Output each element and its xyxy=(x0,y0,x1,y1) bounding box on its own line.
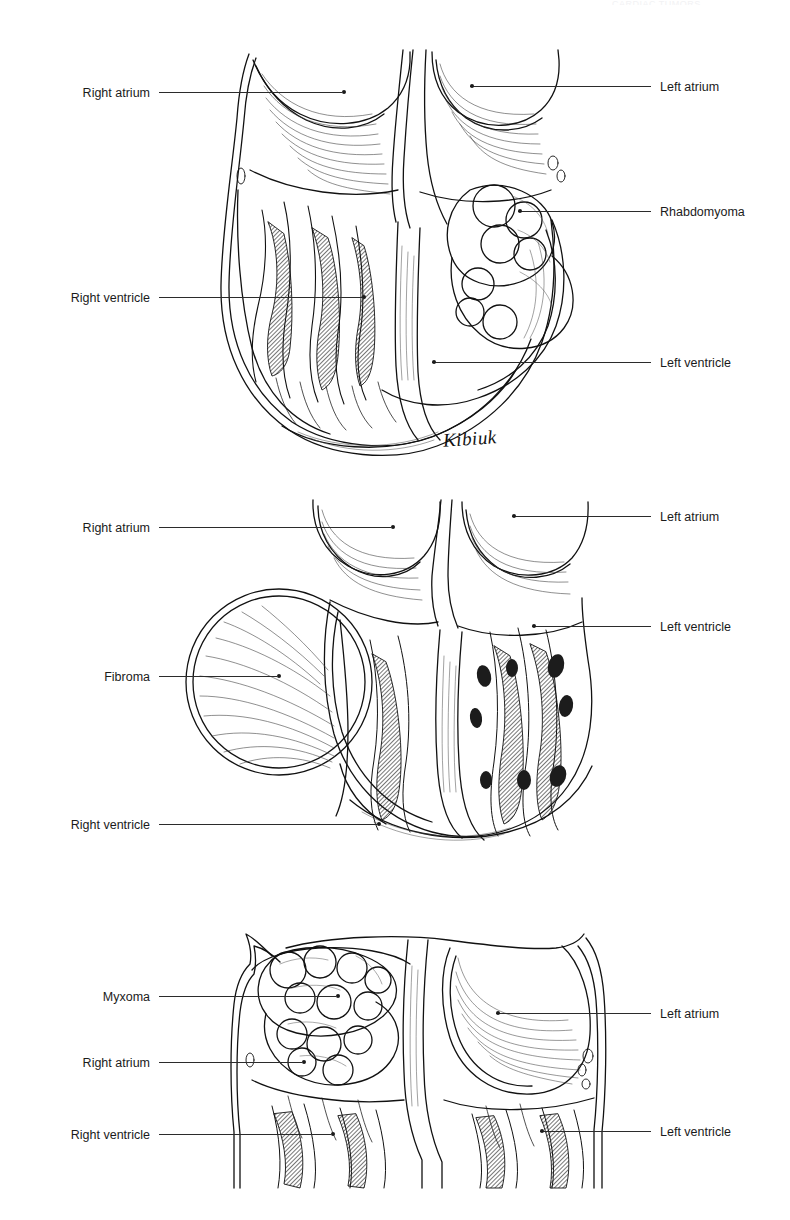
label-left-atrium-fibroma: Left atrium xyxy=(660,509,719,524)
illustration-page: CARDIAC TUMORS xyxy=(0,0,790,1220)
leader-line xyxy=(159,297,362,298)
label-left-ventricle-fibroma: Left ventricle xyxy=(660,619,731,634)
leader-line xyxy=(159,92,342,93)
leader-line xyxy=(470,86,651,87)
label-left-ventricle-rhabdomyoma: Left ventricle xyxy=(660,355,731,370)
label-fibroma: Fibroma xyxy=(40,669,150,684)
leader-line xyxy=(532,626,651,627)
leader-line xyxy=(159,676,277,677)
label-right-ventricle-fibroma: Right ventricle xyxy=(40,817,150,832)
leader-line xyxy=(159,824,377,825)
label-myxoma: Myxoma xyxy=(40,989,150,1004)
label-left-ventricle-myxoma: Left ventricle xyxy=(660,1124,731,1139)
leader-line xyxy=(159,996,336,997)
panel-myxoma xyxy=(0,910,790,1190)
label-right-ventricle-rhabdomyoma: Right ventricle xyxy=(40,290,150,305)
label-right-atrium-fibroma: Right atrium xyxy=(40,520,150,535)
label-right-ventricle-myxoma: Right ventricle xyxy=(40,1127,150,1142)
leader-line xyxy=(518,211,651,212)
leader-line xyxy=(432,362,651,363)
leader-line xyxy=(159,1134,331,1135)
leader-line xyxy=(540,1131,651,1132)
label-right-atrium-myxoma: Right atrium xyxy=(40,1055,150,1070)
leader-line xyxy=(512,516,651,517)
heart-illustration-myxoma xyxy=(0,910,790,1190)
leader-line xyxy=(159,1062,302,1063)
leader-line xyxy=(496,1013,651,1014)
artist-signature: Kibiuk xyxy=(442,426,497,452)
leader-line xyxy=(159,527,391,528)
label-left-atrium-myxoma: Left atrium xyxy=(660,1006,719,1021)
label-left-atrium-rhabdomyoma: Left atrium xyxy=(660,79,719,94)
label-rhabdomyoma: Rhabdomyoma xyxy=(660,204,745,219)
label-right-atrium-rhabdomyoma: Right atrium xyxy=(40,85,150,100)
running-header: CARDIAC TUMORS xyxy=(612,0,782,5)
